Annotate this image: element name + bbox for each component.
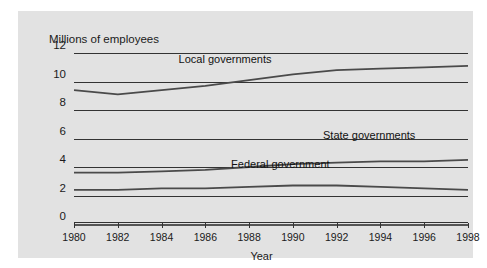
x-tick-label: 1994 bbox=[369, 231, 392, 243]
x-tick bbox=[468, 223, 469, 228]
x-tick-label: 1988 bbox=[237, 231, 260, 243]
series-label-federal: Federal government bbox=[231, 158, 329, 170]
y-tick-label: 2 bbox=[44, 183, 66, 194]
x-tick-label: 1992 bbox=[325, 231, 348, 243]
x-tick bbox=[424, 223, 425, 228]
x-tick bbox=[380, 223, 381, 228]
x-tick bbox=[205, 223, 206, 228]
x-tick bbox=[74, 223, 75, 228]
x-tick-label: 1990 bbox=[281, 231, 304, 243]
series-label-local: Local governments bbox=[179, 53, 272, 65]
chart-panel: Millions of employees 121086420 19801982… bbox=[18, 11, 473, 258]
series-label-state: State governments bbox=[323, 129, 415, 141]
x-tick bbox=[293, 223, 294, 228]
gridline-0 bbox=[74, 224, 468, 226]
x-tick-label: 1982 bbox=[106, 231, 129, 243]
x-tick bbox=[337, 223, 338, 228]
x-tick-label: 1998 bbox=[456, 231, 479, 243]
x-tick-label: 1980 bbox=[62, 231, 85, 243]
y-tick-label: 10 bbox=[44, 69, 66, 80]
y-tick-label: 0 bbox=[44, 211, 66, 222]
series-line bbox=[74, 186, 468, 190]
y-tick-label: 4 bbox=[44, 154, 66, 165]
y-tick-label: 12 bbox=[44, 40, 66, 51]
x-tick bbox=[118, 223, 119, 228]
x-tick bbox=[249, 223, 250, 228]
x-tick-label: 1984 bbox=[150, 231, 173, 243]
x-axis-line bbox=[74, 222, 468, 223]
y-tick-label: 8 bbox=[44, 97, 66, 108]
series-line bbox=[74, 66, 468, 95]
x-tick bbox=[162, 223, 163, 228]
x-tick-label: 1996 bbox=[413, 231, 436, 243]
x-axis-title: Year bbox=[18, 250, 487, 262]
x-tick-label: 1986 bbox=[194, 231, 217, 243]
chart-figure: Millions of employees 121086420 19801982… bbox=[0, 0, 487, 268]
y-tick-label: 6 bbox=[44, 126, 66, 137]
